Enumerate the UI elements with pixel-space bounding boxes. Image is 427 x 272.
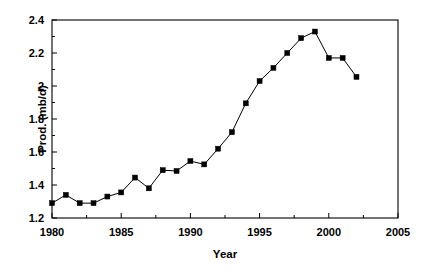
data-point-marker	[119, 190, 124, 195]
data-point-marker	[202, 162, 207, 167]
chart-figure: 1.21.41.61.822.22.4 19801985199019952000…	[0, 0, 427, 272]
data-point-marker	[340, 55, 345, 60]
x-axis-title: Year	[213, 249, 237, 260]
y-tick-label: 2.4	[0, 15, 44, 26]
data-point-marker	[105, 194, 110, 199]
data-point-marker	[174, 168, 179, 173]
data-point-marker	[312, 29, 317, 34]
data-point-marker	[216, 146, 221, 151]
data-point-markers	[50, 29, 359, 206]
data-point-marker	[271, 65, 276, 70]
data-point-marker	[146, 186, 151, 191]
data-point-marker	[354, 74, 359, 79]
data-point-marker	[229, 130, 234, 135]
y-tick-label: 2.2	[0, 48, 44, 59]
data-point-marker	[285, 51, 290, 56]
data-point-marker	[243, 101, 248, 106]
data-series-line	[52, 32, 356, 204]
axis-ticks	[52, 20, 398, 218]
x-tick-label: 1985	[109, 227, 133, 238]
plot-frame	[52, 20, 398, 218]
data-point-marker	[188, 159, 193, 164]
data-point-marker	[91, 201, 96, 206]
x-tick-label: 1980	[40, 227, 64, 238]
data-point-marker	[326, 55, 331, 60]
data-point-marker	[257, 79, 262, 84]
data-point-marker	[133, 175, 138, 180]
x-tick-label: 1990	[178, 227, 202, 238]
data-point-marker	[299, 36, 304, 41]
data-point-marker	[50, 201, 55, 206]
x-tick-label: 2005	[386, 227, 410, 238]
y-tick-label: 1.2	[0, 213, 44, 224]
data-point-marker	[160, 168, 165, 173]
x-tick-label: 2000	[317, 227, 341, 238]
x-tick-label: 1995	[247, 227, 271, 238]
data-point-marker	[77, 201, 82, 206]
data-point-marker	[63, 192, 68, 197]
y-tick-label: 1.4	[0, 180, 44, 191]
y-axis-title: Prod. (mb/d)	[37, 85, 48, 153]
